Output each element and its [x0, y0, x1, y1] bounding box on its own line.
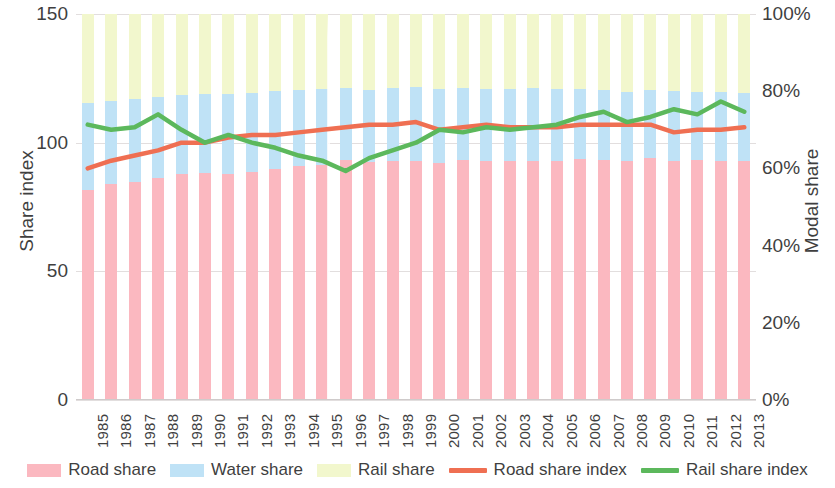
x-tick-label-1998: 1998 [399, 398, 416, 448]
y-tick-left-50: 50 [8, 261, 68, 280]
chart-legend: Road shareWater shareRail shareRoad shar… [0, 455, 835, 485]
y-tick-right-100: 100% [762, 4, 832, 23]
legend-label: Road share index [494, 460, 627, 480]
x-tick-label-1987: 1987 [141, 398, 158, 448]
x-tick-label-1989: 1989 [188, 398, 205, 448]
x-tick-label-1994: 1994 [305, 398, 322, 448]
y-tick-right-80: 80% [762, 81, 832, 100]
x-tick-label-1995: 1995 [328, 398, 345, 448]
line-road-share-index [88, 122, 745, 168]
x-tick-label-2000: 2000 [445, 398, 462, 448]
x-tick-label-2010: 2010 [680, 398, 697, 448]
x-tick-label-1999: 1999 [422, 398, 439, 448]
x-tick-label-2011: 2011 [703, 398, 720, 448]
stacked-bar-line-chart: Share index Modal share 050100150 0%20%4… [0, 0, 835, 488]
legend-swatch-box [170, 464, 204, 477]
x-tick-label-2009: 2009 [656, 398, 673, 448]
x-tick-label-2012: 2012 [727, 398, 744, 448]
plot-area [76, 14, 756, 400]
y-tick-right-60: 60% [762, 158, 832, 177]
x-tick-label-1991: 1991 [234, 398, 251, 448]
x-tick-label-1988: 1988 [164, 398, 181, 448]
legend-swatch-line [641, 468, 679, 473]
x-tick-label-2007: 2007 [610, 398, 627, 448]
x-axis-category-labels: 1985198619871988198919901991199219931994… [76, 404, 756, 454]
y-tick-left-100: 100 [8, 133, 68, 152]
x-tick-label-2003: 2003 [516, 398, 533, 448]
legend-label: Road share [68, 460, 156, 480]
x-tick-label-2005: 2005 [563, 398, 580, 448]
y-tick-left-150: 150 [8, 4, 68, 23]
x-tick-label-1986: 1986 [117, 398, 134, 448]
x-tick-label-2006: 2006 [586, 398, 603, 448]
x-tick-label-2002: 2002 [492, 398, 509, 448]
y-axis-left-ticks: 050100150 [8, 0, 68, 488]
x-tick-label-1993: 1993 [281, 398, 298, 448]
legend-swatch-line [449, 468, 487, 473]
x-tick-label-1992: 1992 [258, 398, 275, 448]
x-tick-label-1997: 1997 [375, 398, 392, 448]
line-rail-share-index [88, 101, 745, 170]
legend-label: Rail share index [686, 460, 808, 480]
x-tick-label-1990: 1990 [211, 398, 228, 448]
legend-label: Rail share [358, 460, 435, 480]
y-axis-right-ticks: 0%20%40%60%80%100% [762, 0, 832, 488]
x-tick-label-2001: 2001 [469, 398, 486, 448]
x-tick-label-1985: 1985 [94, 398, 111, 448]
y-tick-right-40: 40% [762, 236, 832, 255]
y-tick-right-20: 20% [762, 313, 832, 332]
x-tick-label-2008: 2008 [633, 398, 650, 448]
y-tick-left-0: 0 [8, 390, 68, 409]
y-tick-right-0: 0% [762, 390, 832, 409]
x-tick-label-2013: 2013 [750, 398, 767, 448]
legend-swatch-box [317, 464, 351, 477]
legend-swatch-box [27, 464, 61, 477]
legend-label: Water share [211, 460, 303, 480]
x-tick-label-2004: 2004 [539, 398, 556, 448]
legend-item-rail-share[interactable]: Rail share [317, 460, 435, 480]
legend-item-rail-share-index[interactable]: Rail share index [641, 460, 808, 480]
legend-item-road-share[interactable]: Road share [27, 460, 156, 480]
line-series-group [76, 14, 756, 400]
legend-item-road-share-index[interactable]: Road share index [449, 460, 627, 480]
legend-item-water-share[interactable]: Water share [170, 460, 303, 480]
x-tick-label-1996: 1996 [352, 398, 369, 448]
